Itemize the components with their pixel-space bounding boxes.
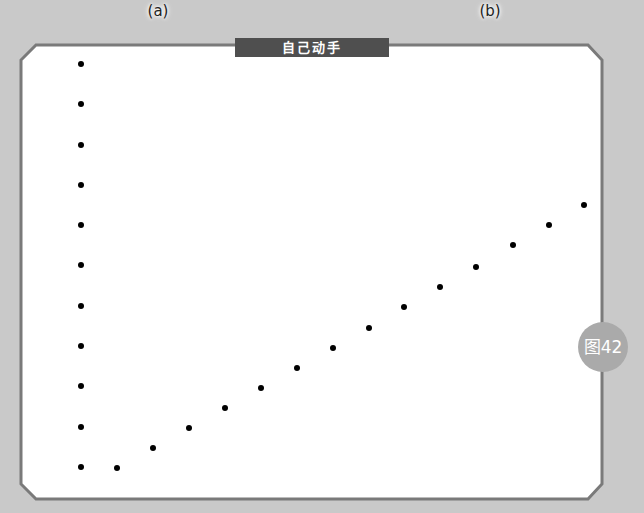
dot — [258, 385, 264, 391]
activity-panel-frame — [0, 0, 644, 513]
dot — [186, 425, 192, 431]
dot — [330, 345, 336, 351]
dot — [473, 264, 479, 270]
dot — [581, 202, 587, 208]
dot — [510, 242, 516, 248]
dot — [78, 61, 84, 67]
dot — [546, 222, 552, 228]
dot — [78, 182, 84, 188]
dot — [78, 142, 84, 148]
figure-number-badge: 图42 — [578, 322, 628, 372]
dot — [366, 325, 372, 331]
dot — [78, 464, 84, 470]
dot — [78, 101, 84, 107]
dot — [78, 383, 84, 389]
dot — [222, 405, 228, 411]
dot — [114, 465, 120, 471]
dot — [294, 365, 300, 371]
dot — [78, 303, 84, 309]
dot — [78, 424, 84, 430]
dot — [78, 222, 84, 228]
dot — [437, 284, 443, 290]
dot — [78, 262, 84, 268]
dot — [150, 445, 156, 451]
panel-title-tab: 自己动手 — [235, 38, 389, 57]
dot — [401, 304, 407, 310]
dot — [78, 343, 84, 349]
